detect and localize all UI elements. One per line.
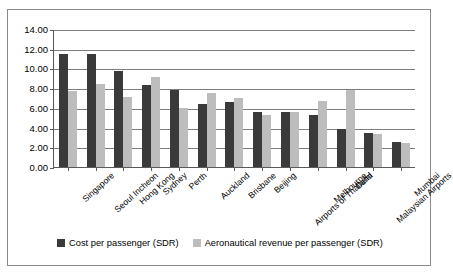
bar-aeronautical-revenue bbox=[373, 134, 382, 168]
legend-label: Cost per passenger (SDR) bbox=[69, 238, 179, 248]
y-axis-tick-label: 2.00 bbox=[30, 144, 49, 154]
x-axis-tick-label: Auckland bbox=[219, 171, 251, 201]
bar-group bbox=[82, 30, 110, 167]
bar-group bbox=[110, 30, 138, 167]
x-axis-labels: SingaporeSeoul IncheonHong KongSydneyPer… bbox=[53, 168, 415, 238]
bar-cost-per-passenger bbox=[87, 54, 96, 167]
bar-aeronautical-revenue bbox=[234, 98, 243, 167]
bar-group bbox=[193, 30, 221, 167]
bar-group bbox=[332, 30, 360, 167]
bar-aeronautical-revenue bbox=[68, 91, 77, 167]
x-axis-tick-label: Singapore bbox=[81, 171, 116, 204]
y-axis-tick-label: 6.00 bbox=[30, 104, 49, 114]
bar-cost-per-passenger bbox=[114, 71, 123, 167]
bar-cost-per-passenger bbox=[142, 85, 151, 167]
legend-swatch-cost bbox=[57, 239, 65, 247]
y-axis-tick-label: 0.00 bbox=[30, 163, 49, 173]
bar-aeronautical-revenue bbox=[96, 84, 105, 167]
bar-cost-per-passenger bbox=[225, 102, 234, 167]
bar-aeronautical-revenue bbox=[318, 101, 327, 167]
bar-cost-per-passenger bbox=[170, 90, 179, 167]
bar-group bbox=[359, 30, 387, 167]
bar-aeronautical-revenue bbox=[262, 115, 271, 167]
bar-group bbox=[387, 30, 415, 167]
bar-group bbox=[304, 30, 332, 167]
bar-group bbox=[248, 30, 276, 167]
bar-group bbox=[137, 30, 165, 167]
bar-cost-per-passenger bbox=[281, 112, 290, 167]
x-axis-tick-label: Beijing bbox=[272, 171, 297, 195]
chart-legend: Cost per passenger (SDR)Aeronautical rev… bbox=[8, 238, 432, 248]
x-axis-tick-label: Perth bbox=[188, 171, 209, 191]
bar-group bbox=[276, 30, 304, 167]
bar-aeronautical-revenue bbox=[401, 143, 410, 167]
bar-cost-per-passenger bbox=[392, 142, 401, 167]
y-axis-tick-label: 14.00 bbox=[24, 25, 48, 35]
bar-cost-per-passenger bbox=[309, 115, 318, 167]
bar-group bbox=[54, 30, 82, 167]
y-axis-tick-label: 8.00 bbox=[30, 84, 49, 94]
bar-aeronautical-revenue bbox=[346, 90, 355, 167]
plot-area: 14.0012.0010.008.006.004.002.000.00 bbox=[53, 30, 415, 168]
bar-aeronautical-revenue bbox=[151, 77, 160, 167]
bar-aeronautical-revenue bbox=[123, 97, 132, 167]
legend-item: Cost per passenger (SDR) bbox=[57, 238, 179, 248]
y-axis-tick-label: 12.00 bbox=[24, 45, 48, 55]
bar-aeronautical-revenue bbox=[179, 108, 188, 167]
y-axis-tick-label: 10.00 bbox=[24, 65, 48, 75]
bar-cost-per-passenger bbox=[364, 133, 373, 168]
bar-aeronautical-revenue bbox=[207, 93, 216, 167]
legend-swatch-revenue bbox=[193, 239, 201, 247]
bar-group bbox=[221, 30, 249, 167]
bar-group bbox=[165, 30, 193, 167]
y-axis-tick-label: 4.00 bbox=[30, 124, 49, 134]
bar-groups bbox=[54, 30, 415, 167]
bar-cost-per-passenger bbox=[198, 104, 207, 167]
bar-cost-per-passenger bbox=[59, 54, 68, 167]
chart-frame: 14.0012.0010.008.006.004.002.000.00 Sing… bbox=[7, 9, 431, 266]
legend-item: Aeronautical revenue per passenger (SDR) bbox=[193, 238, 383, 248]
bar-aeronautical-revenue bbox=[290, 112, 299, 167]
bar-cost-per-passenger bbox=[337, 129, 346, 167]
bar-cost-per-passenger bbox=[253, 112, 262, 167]
legend-label: Aeronautical revenue per passenger (SDR) bbox=[205, 238, 383, 248]
